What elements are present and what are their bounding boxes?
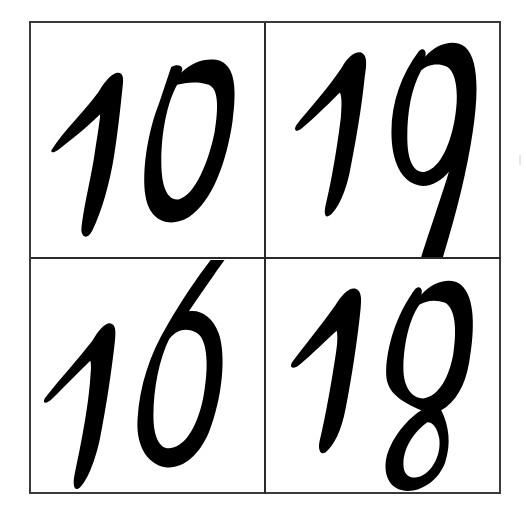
handwritten-digits-16: [31, 259, 264, 494]
handwritten-number-grid: 10 19 16 18: [29, 21, 501, 494]
handwritten-digits-10: [31, 23, 264, 257]
handwritten-digits-19: [266, 23, 501, 257]
number-cell-18: 18: [266, 259, 501, 494]
number-cell-10: 10: [31, 23, 266, 259]
edge-artifact: [519, 155, 521, 165]
handwritten-digits-18: [266, 259, 501, 494]
number-cell-19: 19: [266, 23, 501, 259]
number-cell-16: 16: [31, 259, 266, 494]
